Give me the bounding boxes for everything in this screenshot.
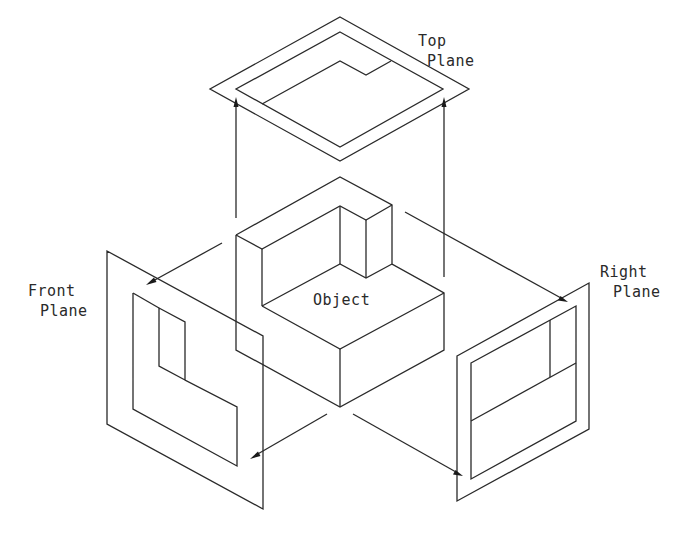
right-view-midline [471, 363, 576, 421]
top-plane-label-line1: Top [418, 32, 447, 50]
arrowhead-icon [146, 278, 157, 286]
arrow-to-front-lower [256, 414, 327, 455]
front-plane-inner-left [133, 293, 159, 308]
front-plane [107, 251, 263, 509]
object-label: Object [313, 291, 370, 309]
top-plane-label-line2: Plane [427, 52, 475, 70]
front-plane-label-line1: Front [28, 282, 76, 300]
front-plane-label-line2: Plane [40, 302, 88, 320]
projection-diagram: Top Plane Front Plane Right Plane Object [0, 0, 695, 539]
arrow-to-right-lower [353, 414, 456, 472]
arrow-to-front-upper [153, 243, 222, 281]
top-view-outline [262, 61, 391, 104]
object-edge [236, 205, 392, 249]
arrow-to-right-upper [405, 212, 561, 298]
projection-arrows [146, 97, 568, 476]
right-plane [457, 283, 589, 501]
right-plane-label-line2: Plane [613, 283, 661, 301]
top-plane-inner [236, 32, 443, 147]
right-plane-label-line1: Right [600, 263, 648, 281]
front-plane-inner [133, 293, 237, 466]
